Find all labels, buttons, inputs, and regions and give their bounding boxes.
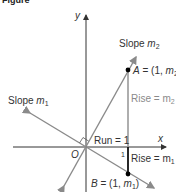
y-axis-label: y xyxy=(74,10,81,21)
point-a xyxy=(126,68,131,73)
point-b-label: B = (1, m1) xyxy=(91,178,139,190)
perpendicular-slopes-diagram: Figure y x O A = (1, m2) B = (1, m1) Slo… xyxy=(0,0,176,192)
figure-caption: Figure xyxy=(2,0,30,5)
point-a-label: A = (1, m2) xyxy=(132,65,176,77)
line-m2 xyxy=(64,57,136,186)
slope-m1-label: Slope m1 xyxy=(8,95,49,107)
slope-m2-label: Slope m2 xyxy=(119,38,160,50)
tick-one-label: 1 xyxy=(121,151,125,158)
rise-m1-label: Rise = m1 xyxy=(131,153,175,165)
line-m1 xyxy=(30,113,154,188)
x-axis-label: x xyxy=(157,133,164,144)
rise-m2-label: Rise = m2 xyxy=(131,93,175,105)
origin-label: O xyxy=(71,149,79,160)
run-label: Run = 1 xyxy=(94,135,130,146)
point-b xyxy=(126,172,131,177)
right-angle-marker xyxy=(80,138,89,144)
